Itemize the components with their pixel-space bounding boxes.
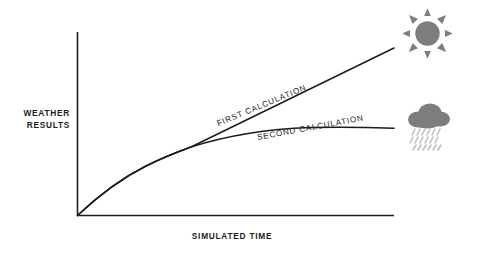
second-calculation-curve: [78, 127, 395, 215]
x-axis-label: SIMULATED TIME: [132, 231, 332, 243]
sun-icon: [402, 8, 452, 58]
cloud-shape: [408, 104, 450, 129]
weather-chaos-figure: WEATHER RESULTS SIMULATED TIME FIRST CAL…: [0, 0, 477, 254]
chart-canvas: [0, 0, 477, 254]
y-axis-label: WEATHER RESULTS: [0, 108, 70, 131]
rain-cloud-icon: [408, 104, 450, 151]
first-calculation-curve: [78, 48, 395, 216]
rain-streaks: [410, 129, 441, 150]
